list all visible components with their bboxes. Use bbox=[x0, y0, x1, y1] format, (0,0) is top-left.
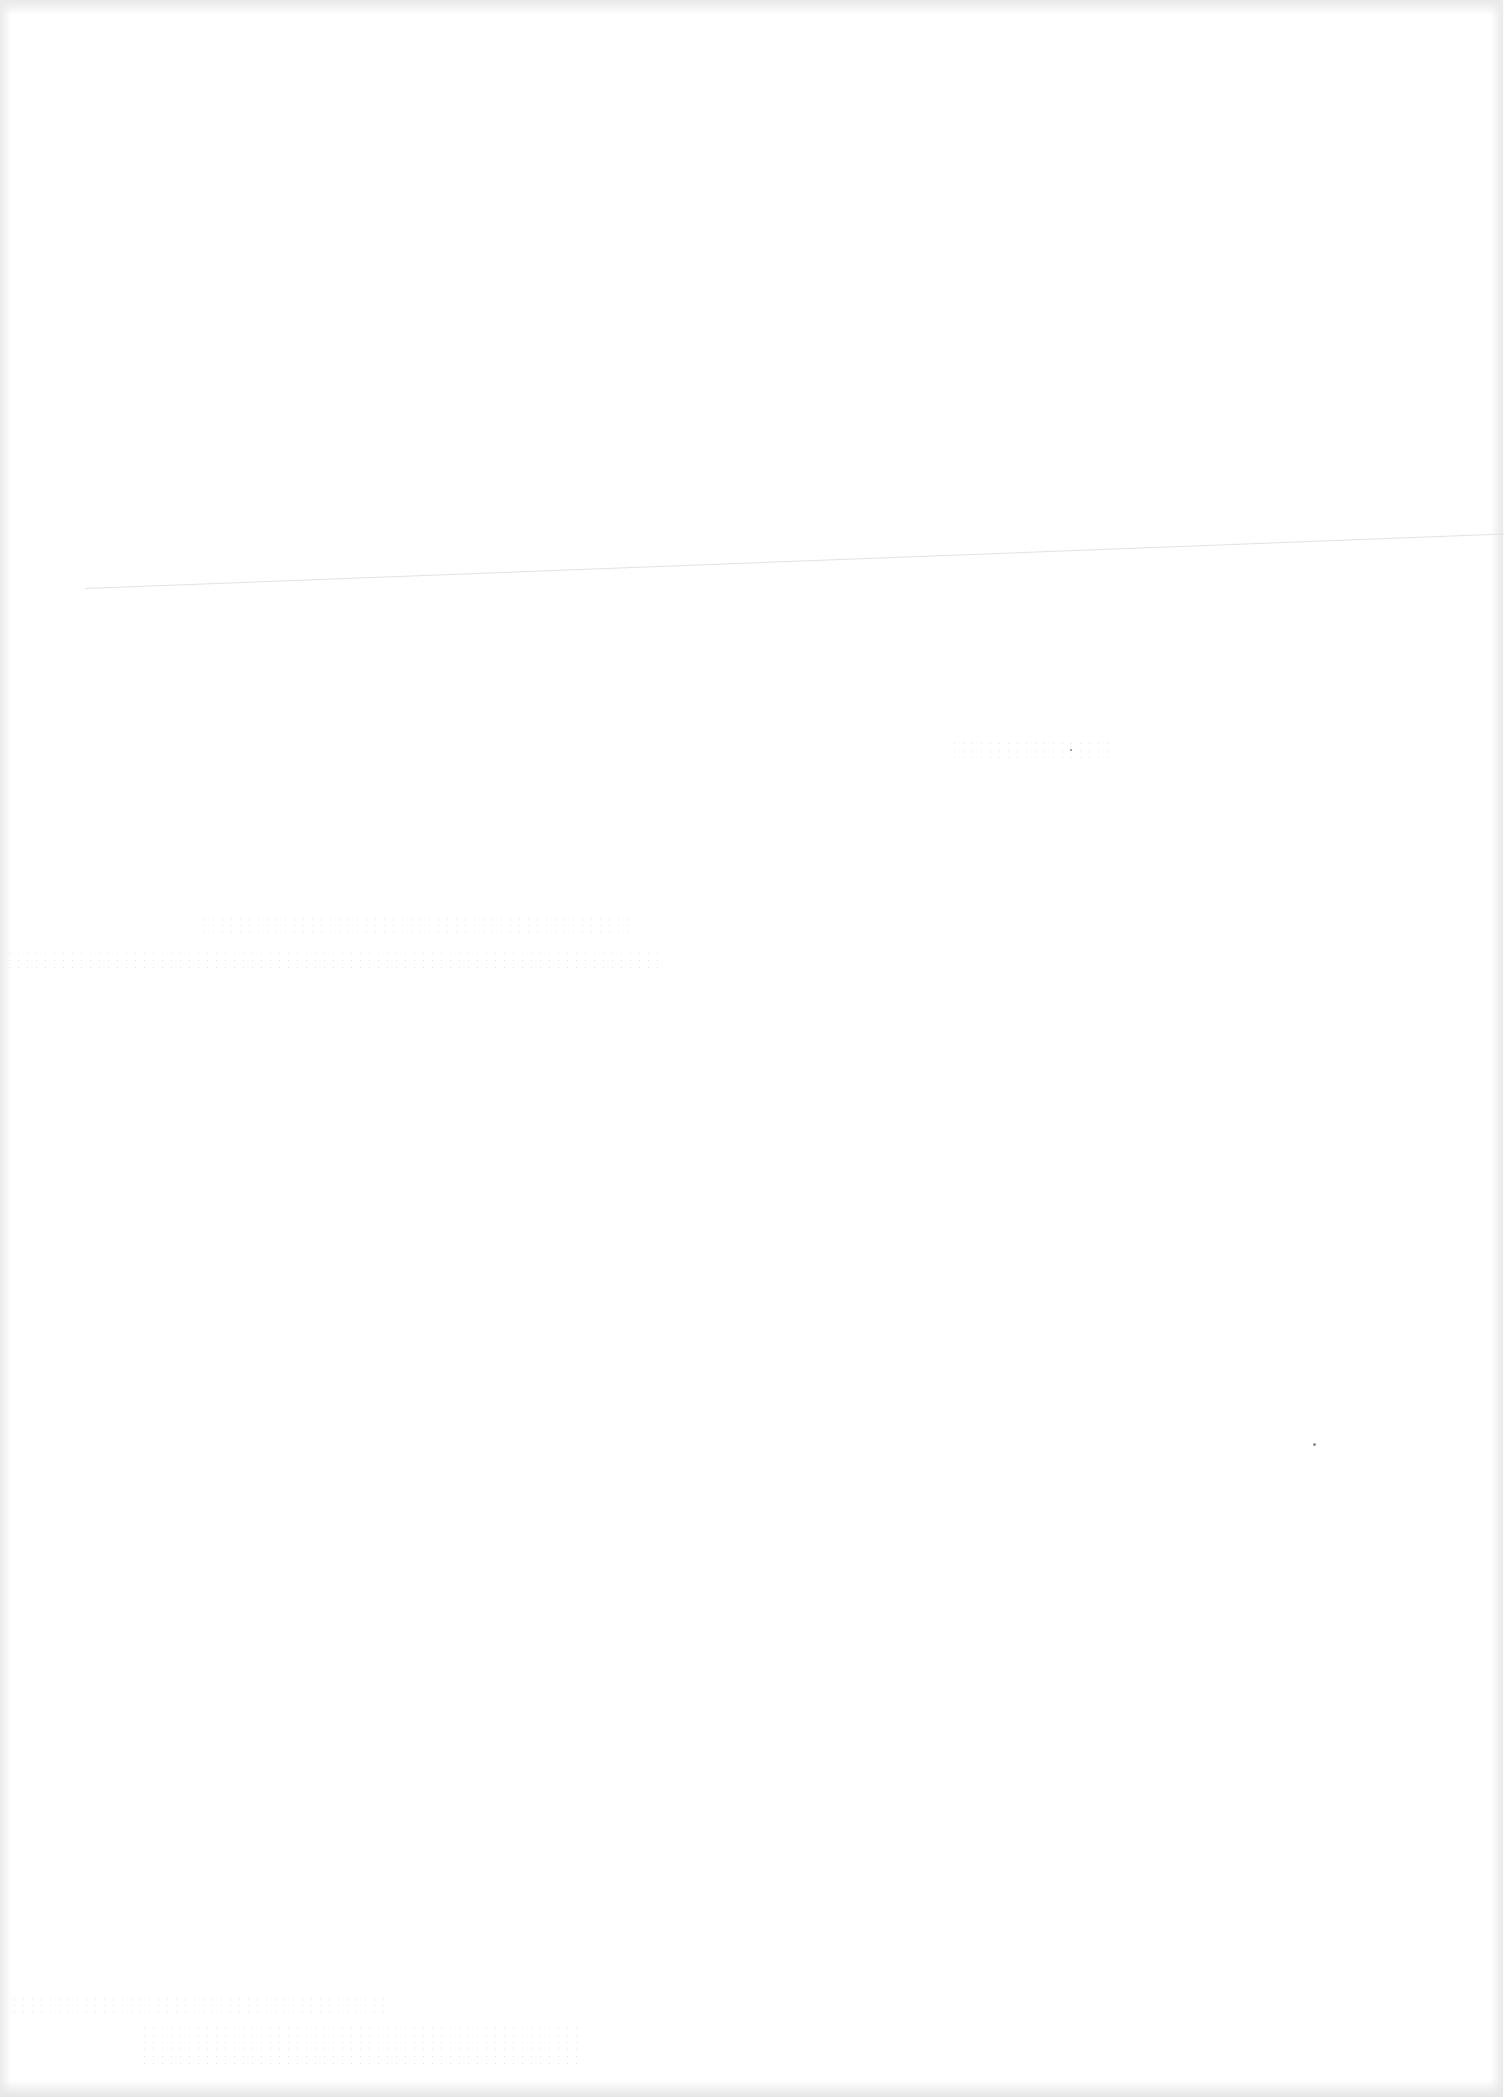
bleed-through-mark bbox=[5, 950, 665, 974]
scan-speck bbox=[1070, 749, 1072, 751]
bleed-through-mark bbox=[950, 740, 1110, 762]
page-edge-shadow-right bbox=[1491, 0, 1503, 2097]
bleed-through-mark bbox=[200, 915, 630, 937]
page-edge-shadow-top bbox=[0, 0, 1503, 14]
scan-speck bbox=[1313, 1443, 1316, 1446]
fold-line bbox=[85, 533, 1504, 589]
page-edge-shadow-left bbox=[0, 0, 10, 2097]
bleed-through-mark bbox=[10, 1995, 390, 2015]
page-edge-shadow-bottom bbox=[0, 2081, 1503, 2097]
bleed-through-mark bbox=[140, 2025, 580, 2065]
